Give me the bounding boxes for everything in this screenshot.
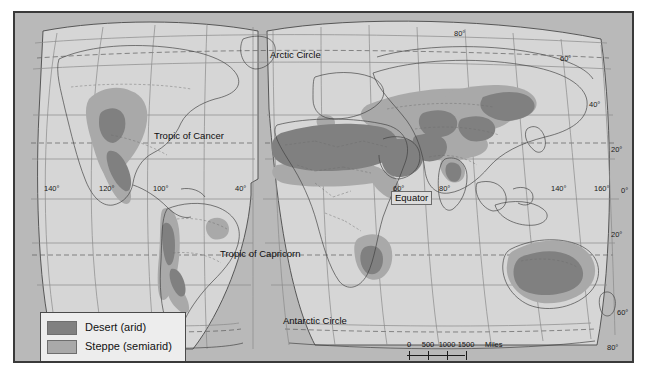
- scale-miles-tick-1500: 1500: [458, 340, 475, 349]
- longitude-label-80e: 80°: [439, 185, 450, 193]
- longitude-label-140e: 140°: [551, 185, 567, 193]
- longitude-label-120w: 120°: [99, 185, 115, 193]
- scale-km-tick-1000: 1000: [426, 361, 443, 363]
- latitude-label-40n: 40°: [589, 101, 600, 109]
- scale-ruler: [407, 351, 465, 360]
- scale-tick-3: [466, 351, 467, 360]
- legend-label-desert: Desert (arid): [85, 322, 146, 333]
- scale-km-tick-2000: 2000: [451, 361, 468, 363]
- label-antarctic-circle: Antarctic Circle: [283, 316, 347, 326]
- latitude-label-60s: 60°: [617, 309, 628, 317]
- legend-swatch-steppe: [47, 340, 77, 354]
- scale-miles-ticks: 0 500 1000 1500 Miles: [407, 340, 532, 350]
- desert-australia: [514, 251, 584, 295]
- longitude-label-160e: 160°: [594, 185, 610, 193]
- scale-miles-tick-0: 0: [407, 340, 411, 349]
- longitude-label-40w: 40°: [235, 185, 246, 193]
- map-scale-bar: 0 500 1000 1500 Miles 0 1000 2000 Kilome…: [407, 340, 532, 363]
- longitude-label-100w: 100°: [153, 185, 169, 193]
- desert-karakum: [419, 110, 457, 137]
- scale-kilometers-ticks: 0 1000 2000 Kilometers: [407, 361, 532, 363]
- label-arctic-circle: Arctic Circle: [270, 50, 321, 60]
- longitude-label-140w: 140°: [44, 185, 60, 193]
- label-equator: Equator: [391, 191, 432, 205]
- scale-ruler-line: [407, 355, 465, 356]
- legend-item-desert: Desert (arid): [47, 318, 179, 337]
- scale-tick-1: [428, 351, 429, 360]
- scale-tick-2: [447, 351, 448, 360]
- latitude-label-80s: 80°: [607, 344, 618, 352]
- legend-swatch-desert: [47, 321, 77, 335]
- latitude-label-equator: 0°: [621, 187, 628, 195]
- latitude-label-20s: 20°: [611, 231, 622, 239]
- scale-miles-tick-500: 500: [422, 340, 435, 349]
- scale-tick-0: [409, 351, 410, 360]
- map-frame: Arctic Circle Tropic of Cancer Equator T…: [13, 11, 634, 363]
- scale-km-tick-0: 0: [407, 361, 411, 363]
- steppe-caatinga: [206, 218, 229, 240]
- legend-label-steppe: Steppe (semiarid): [85, 341, 172, 352]
- world-climate-map-figure: Arctic Circle Tropic of Cancer Equator T…: [0, 0, 647, 376]
- scale-miles-tick-1000: 1000: [439, 340, 456, 349]
- label-tropic-of-cancer: Tropic of Cancer: [154, 131, 224, 141]
- latitude-label-60n: 60°: [560, 55, 571, 63]
- longitude-label-60e: 60°: [393, 185, 404, 193]
- scale-miles-unit: Miles: [485, 340, 503, 349]
- scale-kilometers-unit: Kilometers: [485, 361, 520, 363]
- latitude-label-20n: 20°: [611, 146, 622, 154]
- latitude-label-80n: 80°: [454, 30, 465, 38]
- map-legend: Desert (arid) Steppe (semiarid): [40, 312, 186, 362]
- label-tropic-of-capricorn: Tropic of Capricorn: [220, 249, 300, 259]
- legend-item-steppe: Steppe (semiarid): [47, 337, 179, 356]
